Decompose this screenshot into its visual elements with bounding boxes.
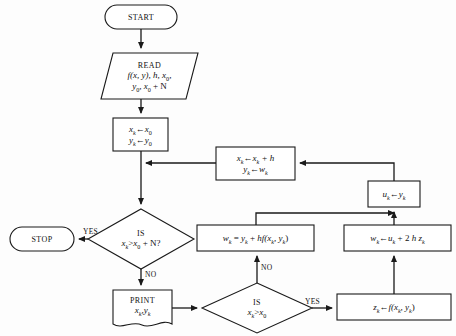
edge-u-assign-to-advance	[300, 163, 394, 181]
slope-process-shape	[337, 294, 451, 320]
euler-process-shape	[197, 225, 314, 251]
stop-terminator-shape	[10, 227, 74, 251]
edge-label-no-euler: NO	[261, 263, 272, 272]
node-shapes	[10, 5, 451, 333]
print-document-shape	[113, 290, 172, 326]
decision-main-diamond-shape	[88, 209, 194, 269]
edge-label-yes-stop: YES	[83, 227, 98, 236]
flowchart-canvas: START READ f(x, y), h, x0, y0, x0 + N xk…	[0, 0, 456, 336]
read-parallelogram-shape	[101, 53, 198, 99]
flowchart-shapes-and-connectors	[0, 0, 456, 336]
u-assign-process-shape	[368, 181, 420, 207]
start-terminator-shape	[105, 5, 177, 29]
init-process-shape	[113, 118, 168, 151]
edge-label-no-print: NO	[145, 270, 156, 279]
edge-euler-to-u-assign	[256, 213, 394, 225]
midpoint-process-shape	[344, 225, 451, 251]
advance-process-shape	[216, 147, 295, 180]
decision-first-diamond-shape	[202, 283, 312, 333]
edge-label-yes-slope: YES	[305, 297, 320, 306]
